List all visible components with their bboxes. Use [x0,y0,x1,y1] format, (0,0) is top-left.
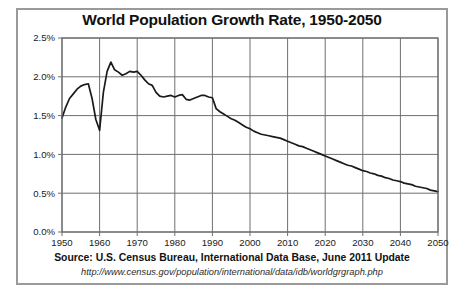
x-axis-tick-label: 2030 [352,237,373,248]
y-axis-tick-label: 2.5% [33,32,55,43]
y-axis-tick-label: 2.0% [33,71,55,82]
plot-area-wrapper: 0.0%0.5%1.0%1.5%2.0%2.5%1950196019701980… [0,0,465,295]
x-axis-tick-label: 1960 [89,237,110,248]
x-axis-tick-label: 1980 [164,237,185,248]
x-axis-tick-label: 2040 [390,237,411,248]
x-axis-tick-label: 1950 [51,237,72,248]
source-note: Source: U.S. Census Bureau, Internationa… [18,252,446,263]
x-axis-tick-label: 2010 [277,237,298,248]
chart-figure: World Population Growth Rate, 1950-2050 … [0,0,465,295]
y-axis-tick-label: 0.5% [33,188,55,199]
y-axis-tick-label: 0.0% [33,226,55,237]
y-axis-tick-label: 1.5% [33,110,55,121]
x-axis-tick-label: 2000 [239,237,260,248]
x-axis-tick-label: 2050 [427,237,448,248]
y-axis-tick-label: 1.0% [33,149,55,160]
x-axis-tick-label: 1990 [202,237,223,248]
source-url: http://www.census.gov/population/interna… [18,267,446,277]
x-axis-tick-label: 1970 [127,237,148,248]
line-chart-svg: 0.0%0.5%1.0%1.5%2.0%2.5%1950196019701980… [0,0,465,295]
x-axis-tick-label: 2020 [315,237,336,248]
